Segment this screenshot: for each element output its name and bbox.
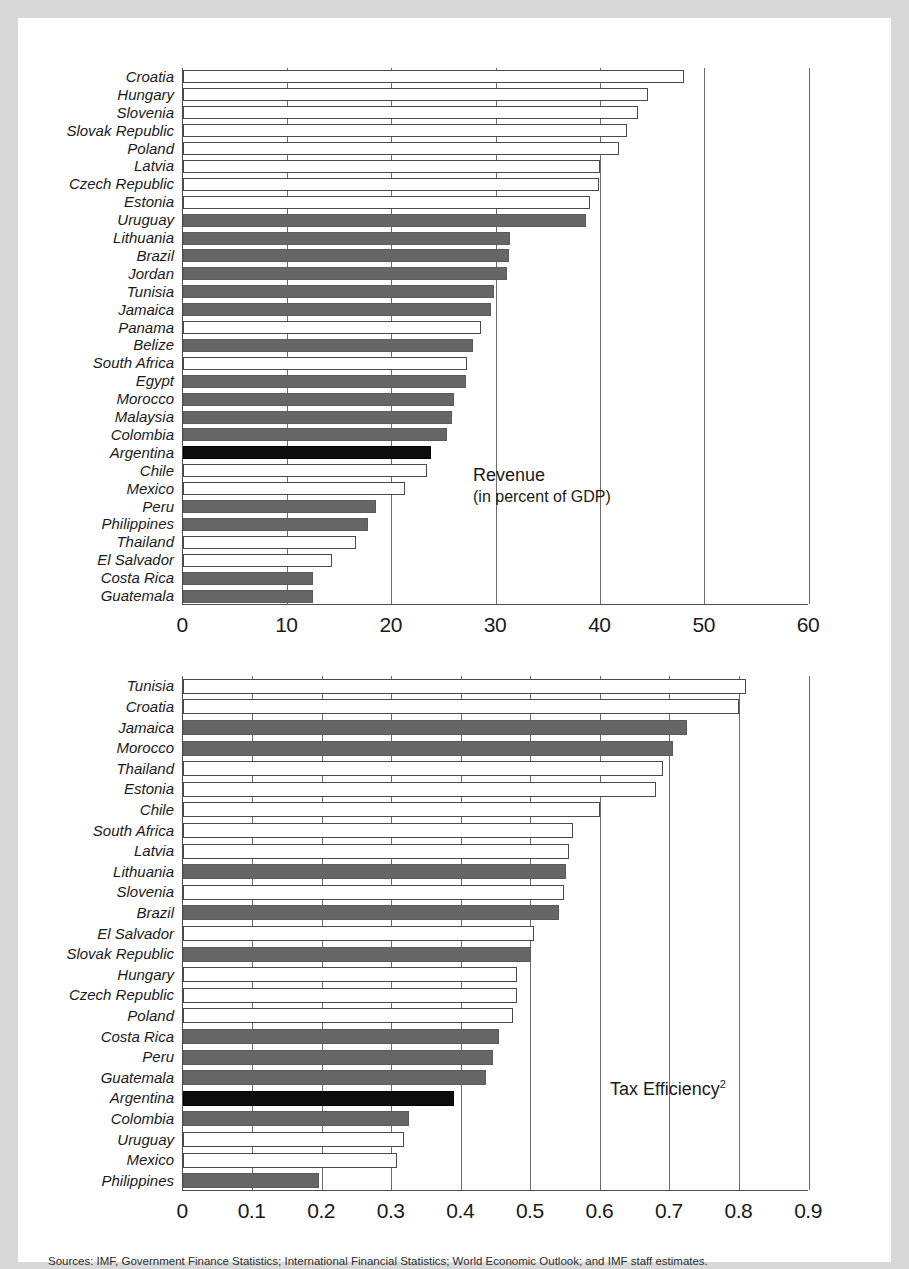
x-tick-label: 0.4 xyxy=(446,1199,474,1223)
bar-el-salvador xyxy=(183,554,332,567)
bar-thailand xyxy=(183,761,663,776)
revenue-legend: Revenue (in percent of GDP) xyxy=(473,464,611,507)
bar-chile xyxy=(183,464,427,477)
bar-lithuania xyxy=(183,864,566,879)
tax-efficiency-legend-title: Tax Efficiency2 xyxy=(610,1078,726,1101)
bar-mexico xyxy=(183,482,405,495)
category-label: Thailand xyxy=(116,761,174,776)
category-label: El Salvador xyxy=(97,552,174,567)
bar-uruguay xyxy=(183,214,586,227)
bar-belize xyxy=(183,339,473,352)
x-tick-label: 0 xyxy=(176,1199,187,1223)
category-label: Costa Rica xyxy=(101,1029,174,1044)
bar-panama xyxy=(183,321,481,334)
bar-argentina xyxy=(183,1091,454,1106)
category-label: Slovak Republic xyxy=(66,946,174,961)
bar-guatemala xyxy=(183,590,313,603)
tax-efficiency-legend-label: Tax Efficiency xyxy=(610,1079,720,1099)
x-tick-label: 0.9 xyxy=(794,1199,822,1223)
category-label: Belize xyxy=(133,337,174,352)
x-tick-label: 0.7 xyxy=(655,1199,683,1223)
bar-jamaica xyxy=(183,303,491,316)
category-label: Lithuania xyxy=(113,864,174,879)
category-label: South Africa xyxy=(93,823,174,838)
category-label: Latvia xyxy=(134,843,174,858)
category-label: Estonia xyxy=(124,781,174,796)
category-label: Panama xyxy=(118,320,174,335)
bar-mexico xyxy=(183,1153,397,1168)
bar-estonia xyxy=(183,782,656,797)
bar-colombia xyxy=(183,428,447,441)
bar-chile xyxy=(183,802,600,817)
category-label: Hungary xyxy=(117,87,174,102)
bar-morocco xyxy=(183,741,673,756)
category-label: Croatia xyxy=(126,699,174,714)
category-label: Tunisia xyxy=(127,678,174,693)
category-label: Estonia xyxy=(124,194,174,209)
category-label: Lithuania xyxy=(113,230,174,245)
category-label: Uruguay xyxy=(117,1132,174,1147)
tax-efficiency-bars xyxy=(182,676,808,1191)
category-label: Jordan xyxy=(128,266,174,281)
revenue-legend-title: Revenue xyxy=(473,464,611,487)
bar-south-africa xyxy=(183,823,573,838)
bar-morocco xyxy=(183,393,454,406)
revenue-category-labels: CroatiaHungarySloveniaSlovak RepublicPol… xyxy=(18,68,180,605)
bar-south-africa xyxy=(183,357,467,370)
gridline xyxy=(809,68,810,604)
tax-efficiency-x-axis: 00.10.20.30.40.50.60.70.80.9 xyxy=(182,1199,808,1229)
bar-poland xyxy=(183,142,619,155)
bar-croatia xyxy=(183,70,684,83)
x-tick-label: 60 xyxy=(797,613,819,637)
bar-philippines xyxy=(183,518,368,531)
tax-efficiency-category-labels: TunisiaCroatiaJamaicaMoroccoThailandEsto… xyxy=(18,676,180,1191)
category-label: Guatemala xyxy=(101,588,174,603)
x-tick-label: 40 xyxy=(588,613,610,637)
bar-slovak-republic xyxy=(183,947,531,962)
x-tick-label: 30 xyxy=(484,613,506,637)
bar-croatia xyxy=(183,699,739,714)
bar-estonia xyxy=(183,196,590,209)
bar-costa-rica xyxy=(183,1029,499,1044)
category-label: Philippines xyxy=(101,516,174,531)
category-label: Brazil xyxy=(136,248,174,263)
figure-panel: CroatiaHungarySloveniaSlovak RepublicPol… xyxy=(18,18,891,1262)
category-label: Slovenia xyxy=(116,884,174,899)
x-tick-label: 10 xyxy=(275,613,297,637)
bar-brazil xyxy=(183,905,559,920)
category-label: Argentina xyxy=(110,1090,174,1105)
category-label: Uruguay xyxy=(117,212,174,227)
category-label: Slovak Republic xyxy=(66,123,174,138)
bar-brazil xyxy=(183,249,509,262)
bar-peru xyxy=(183,1050,493,1065)
bar-poland xyxy=(183,1008,513,1023)
category-label: Slovenia xyxy=(116,105,174,120)
category-label: Hungary xyxy=(117,967,174,982)
bar-tunisia xyxy=(183,285,494,298)
category-label: Croatia xyxy=(126,69,174,84)
bar-latvia xyxy=(183,844,569,859)
bar-guatemala xyxy=(183,1070,486,1085)
bar-el-salvador xyxy=(183,926,534,941)
category-label: South Africa xyxy=(93,355,174,370)
category-label: Mexico xyxy=(126,1152,174,1167)
gridline xyxy=(704,68,705,604)
category-label: Mexico xyxy=(126,481,174,496)
category-label: Poland xyxy=(127,141,174,156)
category-label: Colombia xyxy=(111,427,174,442)
gridline xyxy=(809,676,810,1190)
x-tick-label: 20 xyxy=(379,613,401,637)
category-label: Chile xyxy=(140,463,174,478)
bar-slovak-republic xyxy=(183,124,627,137)
bar-lithuania xyxy=(183,232,510,245)
category-label: Argentina xyxy=(110,445,174,460)
gridline xyxy=(739,676,740,1190)
category-label: Peru xyxy=(142,1049,174,1064)
category-label: Morocco xyxy=(116,740,174,755)
bar-latvia xyxy=(183,160,600,173)
bar-malaysia xyxy=(183,411,452,424)
x-tick-label: 0.2 xyxy=(307,1199,335,1223)
bar-hungary xyxy=(183,967,517,982)
category-label: Poland xyxy=(127,1008,174,1023)
x-tick-label: 0.6 xyxy=(585,1199,613,1223)
